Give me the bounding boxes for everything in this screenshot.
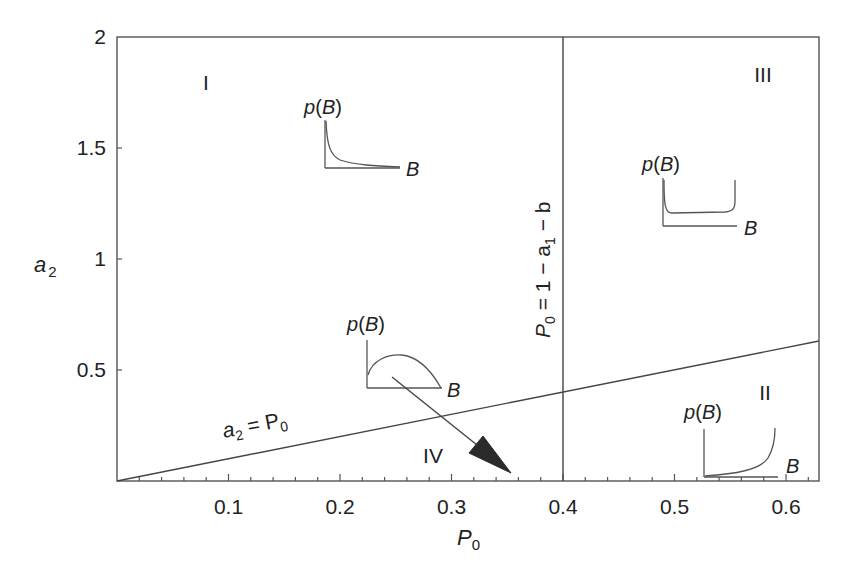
- x-tick-label: 0.1: [214, 495, 243, 518]
- inset-pb-label: p(B): [303, 96, 342, 118]
- y-axis-ticks: [117, 148, 122, 370]
- inset-b-label: B: [447, 379, 460, 401]
- inset-b-label: B: [786, 455, 799, 477]
- x-tick-label: 0.6: [771, 495, 800, 518]
- x-tick-labels: 0.1 0.2 0.3 0.4 0.5 0.6: [214, 495, 801, 518]
- inset-b-label: B: [406, 158, 419, 180]
- inset-region-iv: p(B) B: [346, 313, 460, 401]
- inset-pb-label: p(B): [641, 153, 680, 175]
- region-label-iv: IV: [423, 444, 443, 467]
- y-tick-labels: 0.5 1 1.5 2: [77, 25, 106, 381]
- x-axis-label: P0: [457, 525, 480, 553]
- y-tick-label: 1: [94, 247, 106, 270]
- y-tick-label: 2: [94, 25, 106, 48]
- inset-pb-label: p(B): [683, 401, 722, 423]
- vertical-line-label: P0 = 1 − a1 − b: [531, 202, 558, 338]
- phase-diagram-figure: 0.1 0.2 0.3 0.4 0.5 0.6 0.5 1 1.5 2 P0 a…: [0, 0, 846, 572]
- x-tick-label: 0.4: [548, 495, 578, 518]
- region-label-iii: III: [754, 63, 772, 86]
- region-label-i: I: [203, 71, 209, 94]
- inset-b-label: B: [744, 217, 757, 239]
- y-axis-label: a2: [34, 252, 57, 280]
- inset-pb-label: p(B): [346, 313, 385, 335]
- y-tick-label: 0.5: [77, 358, 106, 381]
- x-tick-label: 0.3: [437, 495, 466, 518]
- region-label-ii: II: [759, 381, 771, 404]
- inset-region-iii: p(B) B: [641, 153, 757, 239]
- x-tick-label: 0.5: [660, 495, 689, 518]
- y-tick-label: 1.5: [77, 136, 106, 159]
- inset-region-i: p(B) B: [303, 96, 419, 180]
- diagonal-line-label: a2 = P0: [220, 407, 289, 446]
- x-tick-label: 0.2: [325, 495, 354, 518]
- inset-region-ii: p(B) B: [683, 401, 799, 477]
